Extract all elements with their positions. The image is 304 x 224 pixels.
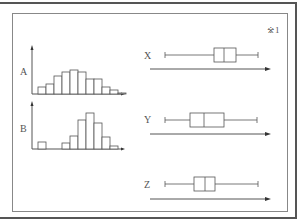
histogram-bar	[70, 136, 78, 149]
histogram-bar	[78, 120, 86, 149]
histogram-bar	[86, 113, 94, 149]
histogram-bar	[94, 79, 102, 94]
histogram-bar	[62, 72, 70, 94]
axis-arrow-icon	[265, 197, 271, 201]
histogram-bar	[38, 87, 46, 94]
histogram-bar	[38, 142, 46, 149]
histogram-bar	[118, 93, 126, 94]
box	[214, 48, 236, 62]
histogram-bar	[94, 123, 102, 149]
histogram-bar	[62, 143, 70, 149]
figure-canvas	[0, 0, 304, 224]
histogram-bar	[78, 72, 86, 94]
histogram-bar	[86, 79, 94, 94]
box	[194, 177, 215, 191]
histogram-bar	[54, 76, 62, 94]
axis-arrow-icon	[265, 67, 271, 71]
histogram-bar	[110, 146, 118, 149]
x-axis-arrow-icon	[121, 148, 125, 151]
histogram-bar	[70, 70, 78, 94]
histogram-bar	[46, 84, 54, 94]
axis-arrow-icon	[265, 132, 271, 136]
histogram-bar	[102, 87, 110, 94]
y-axis-arrow-icon	[31, 101, 34, 106]
histogram-bar	[110, 90, 118, 94]
histogram-bar	[102, 137, 110, 149]
y-axis-arrow-icon	[31, 45, 34, 50]
box	[190, 113, 224, 127]
